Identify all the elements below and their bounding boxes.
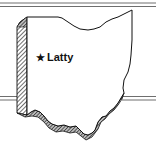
ohio-map	[0, 0, 162, 148]
star-icon: ★	[36, 52, 45, 63]
left-side-shading	[17, 17, 27, 115]
left-side-top-shading	[17, 17, 27, 27]
top-rule-lines	[0, 3, 156, 7]
city-marker: ★Latty	[36, 51, 73, 64]
city-label: Latty	[47, 51, 73, 63]
